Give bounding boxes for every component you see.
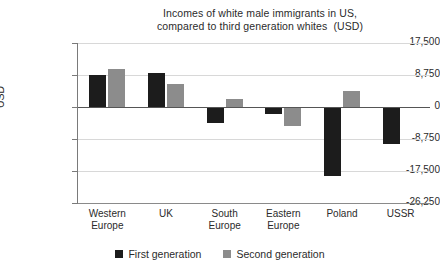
bar [284, 107, 301, 126]
bar [207, 107, 224, 123]
x-axis-category-label: EasternEurope [254, 208, 313, 232]
bar-chart: Incomes of white male immigrants in US, … [0, 0, 440, 274]
bar [226, 99, 243, 107]
x-axis-category-label: WesternEurope [78, 208, 137, 232]
x-axis-category-label-line: Europe [254, 220, 313, 232]
legend-item[interactable]: Second generation [223, 248, 324, 260]
x-axis-category-label: USSR [371, 208, 430, 220]
legend-swatch-icon [115, 250, 123, 258]
chart-title-line-2: compared to third generation whites (USD… [100, 20, 420, 33]
x-axis-category-label: UK [137, 208, 196, 220]
bar [265, 107, 282, 114]
gridline [78, 171, 430, 172]
x-axis-category-label: SouthEurope [195, 208, 254, 232]
x-axis-category-label: Poland [313, 208, 372, 220]
y-axis-tick [72, 107, 77, 108]
bar [148, 73, 165, 107]
gridline [78, 203, 430, 204]
bar [89, 75, 106, 107]
y-axis-tick [72, 75, 77, 76]
y-axis-tick [72, 171, 77, 172]
plot-area [78, 43, 430, 203]
gridline [78, 75, 430, 76]
gridline [78, 43, 430, 44]
gridline [78, 107, 430, 108]
x-axis-category-label-line: Eastern [254, 208, 313, 220]
bar [343, 91, 360, 107]
bar [167, 84, 184, 107]
chart-legend: First generationSecond generation [0, 248, 440, 260]
legend-item[interactable]: First generation [115, 248, 201, 260]
y-axis-tick [72, 43, 77, 44]
legend-label: Second generation [236, 248, 324, 260]
bar [383, 107, 400, 144]
x-axis-category-label-line: UK [137, 208, 196, 220]
y-axis-tick [72, 139, 77, 140]
chart-title: Incomes of white male immigrants in US, … [100, 7, 420, 33]
legend-swatch-icon [223, 250, 231, 258]
legend-label: First generation [128, 248, 201, 260]
x-axis-category-label-line: South [195, 208, 254, 220]
chart-title-line-1: Incomes of white male immigrants in US, [100, 7, 420, 20]
y-axis-title: USD [0, 86, 6, 108]
bar [108, 69, 125, 107]
x-axis-category-label-line: Europe [78, 220, 137, 232]
x-axis-category-label-line: USSR [371, 208, 430, 220]
x-axis-category-label-line: Poland [313, 208, 372, 220]
y-axis-tick [72, 203, 77, 204]
x-axis-category-label-line: Europe [195, 220, 254, 232]
gridline [78, 139, 430, 140]
x-axis-category-label-line: Western [78, 208, 137, 220]
bar [324, 107, 341, 176]
